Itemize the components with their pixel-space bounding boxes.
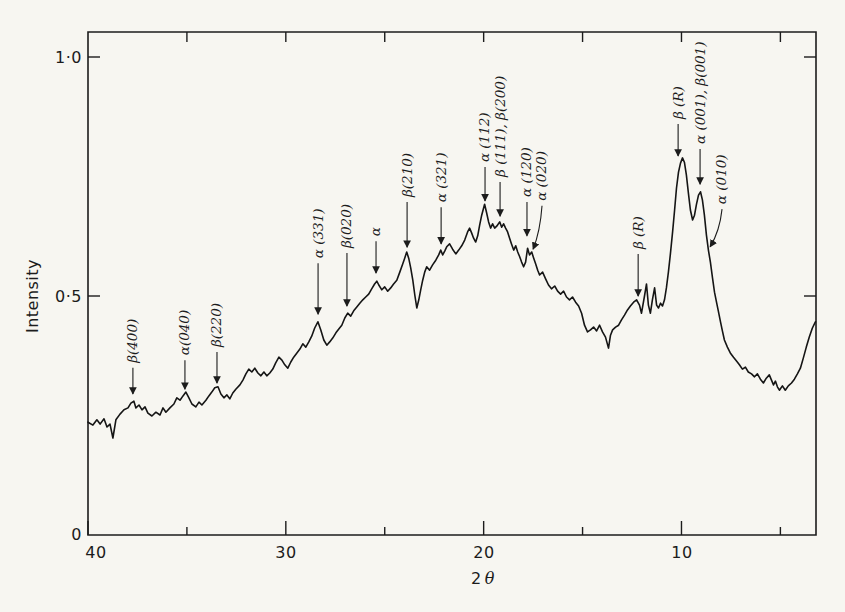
x-tick-label-20: 20 xyxy=(473,543,494,562)
peak-annotation: α (331) xyxy=(310,208,326,314)
peak-annotation: α (120) xyxy=(518,147,534,236)
y-tick-label-0: 0 xyxy=(71,525,82,544)
peak-annotation: β(400) xyxy=(124,319,140,394)
peak-label: α (120) xyxy=(518,147,534,197)
peak-label: α (001), β(001) xyxy=(692,42,708,144)
trace-layer xyxy=(88,158,815,438)
peak-annotation: α (112) xyxy=(476,112,492,201)
x-tick-label-40: 40 xyxy=(85,543,106,562)
x-tick-label-30: 30 xyxy=(275,543,296,562)
peak-label: β (R) xyxy=(630,216,646,250)
axis-tick-labels: 1·0 0·5 0 40 30 20 10 xyxy=(55,48,693,562)
peak-label: α (331) xyxy=(310,208,326,258)
peak-label: α(040) xyxy=(176,310,192,355)
peak-label: α (020) xyxy=(533,151,549,201)
peak-annotation: β (111), β(200) xyxy=(492,76,508,216)
peak-label: β(210) xyxy=(399,153,415,198)
peak-label: α (321) xyxy=(433,153,449,203)
peak-annotation: β(210) xyxy=(399,153,415,247)
peak-label: α xyxy=(367,227,383,236)
peak-label: β(020) xyxy=(338,204,354,249)
peak-annotation: β (R) xyxy=(630,216,646,296)
y-tick-label-0-5: 0·5 xyxy=(55,287,82,306)
y-tick-label-1-0: 1·0 xyxy=(55,48,82,67)
peak-leader-line xyxy=(533,206,542,249)
peak-label: β(220) xyxy=(208,303,224,348)
peak-label: α (112) xyxy=(476,112,492,162)
peak-annotation: β(020) xyxy=(338,204,354,306)
xrd-intensity-trace xyxy=(88,158,815,438)
peak-leader-line xyxy=(710,209,722,247)
peak-label: β (111), β(200) xyxy=(492,76,508,178)
peak-annotation: α (010) xyxy=(710,154,729,246)
peak-annotation: α xyxy=(367,227,383,273)
x-axis-title: 2θ xyxy=(471,569,495,588)
scanned-figure-page: β(400)α(040)β(220)α (331)β(020)αβ(210)α … xyxy=(0,0,845,612)
xrd-pattern-chart: β(400)α(040)β(220)α (331)β(020)αβ(210)α … xyxy=(0,0,845,612)
x-tick-label-10: 10 xyxy=(671,543,692,562)
peak-annotation: β (R) xyxy=(670,86,686,156)
peak-label: α (010) xyxy=(713,154,729,204)
y-axis-title: Intensity xyxy=(23,259,42,333)
peak-annotation-layer: β(400)α(040)β(220)α (331)β(020)αβ(210)α … xyxy=(124,42,729,394)
peak-annotation: α (001), β(001) xyxy=(692,42,708,185)
peak-annotation: α(040) xyxy=(176,310,192,389)
peak-annotation: α (321) xyxy=(433,153,449,244)
peak-annotation: α (020) xyxy=(533,151,549,249)
peak-label: β(400) xyxy=(124,319,140,364)
peak-label: β (R) xyxy=(670,86,686,120)
peak-annotation: β(220) xyxy=(208,303,224,383)
